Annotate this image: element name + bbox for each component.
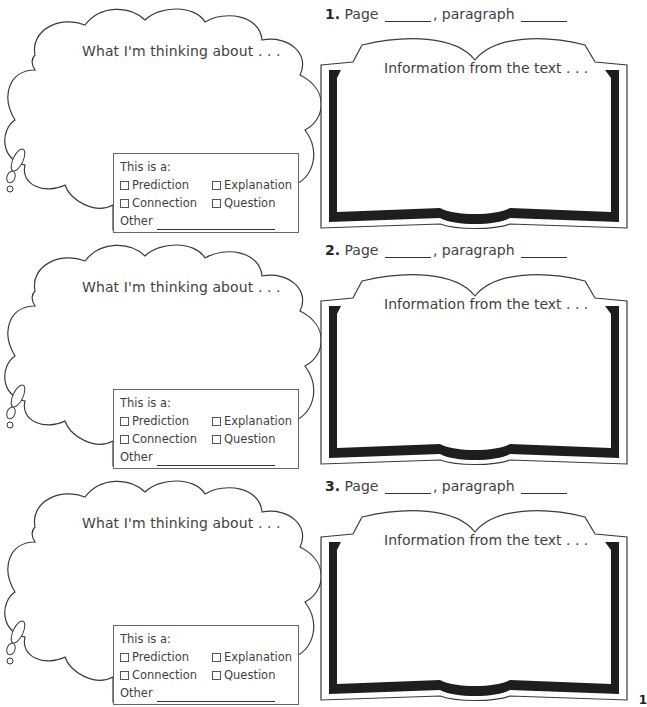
other-input-line[interactable] xyxy=(157,689,275,702)
checkbox[interactable] xyxy=(120,671,129,680)
cloud-prompt: What I'm thinking about . . . xyxy=(82,515,281,531)
option-prediction[interactable]: Prediction xyxy=(120,412,212,430)
type-box-heading: This is a: xyxy=(120,394,292,412)
checkbox[interactable] xyxy=(212,199,221,208)
option-label: Connection xyxy=(132,666,197,684)
option-connection[interactable]: Connection xyxy=(120,194,212,212)
option-label: Question xyxy=(224,666,275,684)
option-label: Connection xyxy=(132,430,197,448)
other-label: Other xyxy=(120,214,153,228)
paragraph-blank[interactable] xyxy=(521,7,567,22)
option-label: Prediction xyxy=(132,412,189,430)
paragraph-blank[interactable] xyxy=(521,243,567,258)
paragraph-label: , paragraph xyxy=(433,6,515,22)
option-label: Explanation xyxy=(224,412,292,430)
worksheet-entry: What I'm thinking about . . . This is a:… xyxy=(0,0,647,235)
page-number: 1 xyxy=(639,693,647,707)
option-label: Question xyxy=(224,430,275,448)
paragraph-label: , paragraph xyxy=(433,242,515,258)
checkbox[interactable] xyxy=(212,435,221,444)
book-prompt: Information from the text . . . xyxy=(384,532,588,548)
option-connection[interactable]: Connection xyxy=(120,430,212,448)
option-prediction[interactable]: Prediction xyxy=(120,648,212,666)
option-explanation[interactable]: Explanation xyxy=(212,412,302,430)
thought-type-box: This is a: Prediction Explanation Connec… xyxy=(113,389,299,469)
checkbox[interactable] xyxy=(212,671,221,680)
thought-type-box: This is a: Prediction Explanation Connec… xyxy=(113,625,299,705)
other-input-line[interactable] xyxy=(157,217,275,230)
option-question[interactable]: Question xyxy=(212,430,302,448)
page-paragraph-reference: 1. Page , paragraph xyxy=(325,6,569,22)
type-box-heading: This is a: xyxy=(120,158,292,176)
other-row: Other xyxy=(120,448,292,466)
checkbox[interactable] xyxy=(120,417,129,426)
option-label: Question xyxy=(224,194,275,212)
page-blank[interactable] xyxy=(385,479,431,494)
entry-number: 1. xyxy=(325,6,340,22)
page-label: Page xyxy=(345,242,379,258)
other-label: Other xyxy=(120,450,153,464)
checkbox[interactable] xyxy=(212,417,221,426)
page-blank[interactable] xyxy=(385,7,431,22)
option-label: Connection xyxy=(132,194,197,212)
checkbox[interactable] xyxy=(120,435,129,444)
page-paragraph-reference: 3. Page , paragraph xyxy=(325,478,569,494)
worksheet-entry: What I'm thinking about . . . This is a:… xyxy=(0,472,647,707)
option-prediction[interactable]: Prediction xyxy=(120,176,212,194)
option-label: Prediction xyxy=(132,176,189,194)
cloud-prompt: What I'm thinking about . . . xyxy=(82,279,281,295)
checkbox[interactable] xyxy=(212,653,221,662)
page-paragraph-reference: 2. Page , paragraph xyxy=(325,242,569,258)
worksheet-entry: What I'm thinking about . . . This is a:… xyxy=(0,236,647,471)
other-input-line[interactable] xyxy=(157,453,275,466)
option-label: Prediction xyxy=(132,648,189,666)
option-explanation[interactable]: Explanation xyxy=(212,648,302,666)
option-question[interactable]: Question xyxy=(212,194,302,212)
paragraph-label: , paragraph xyxy=(433,478,515,494)
other-row: Other xyxy=(120,684,292,702)
book-prompt: Information from the text . . . xyxy=(384,296,588,312)
option-question[interactable]: Question xyxy=(212,666,302,684)
page-label: Page xyxy=(345,6,379,22)
paragraph-blank[interactable] xyxy=(521,479,567,494)
checkbox[interactable] xyxy=(120,653,129,662)
option-connection[interactable]: Connection xyxy=(120,666,212,684)
checkbox[interactable] xyxy=(120,181,129,190)
other-label: Other xyxy=(120,686,153,700)
checkbox[interactable] xyxy=(212,181,221,190)
page-label: Page xyxy=(345,478,379,494)
other-row: Other xyxy=(120,212,292,230)
entry-number: 3. xyxy=(325,478,340,494)
thought-type-box: This is a: Prediction Explanation Connec… xyxy=(113,153,299,233)
option-explanation[interactable]: Explanation xyxy=(212,176,302,194)
option-label: Explanation xyxy=(224,176,292,194)
page-blank[interactable] xyxy=(385,243,431,258)
option-label: Explanation xyxy=(224,648,292,666)
checkbox[interactable] xyxy=(120,199,129,208)
entry-number: 2. xyxy=(325,242,340,258)
type-box-heading: This is a: xyxy=(120,630,292,648)
cloud-prompt: What I'm thinking about . . . xyxy=(82,43,281,59)
book-prompt: Information from the text . . . xyxy=(384,60,588,76)
